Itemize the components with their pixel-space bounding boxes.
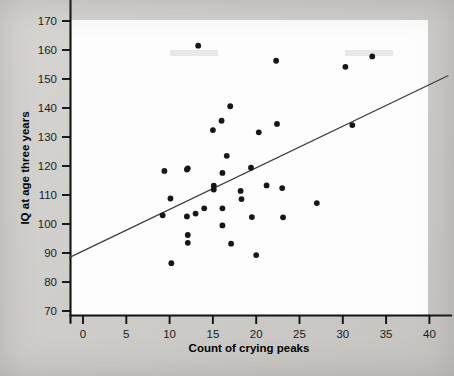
- data-point: [160, 212, 166, 218]
- x-tick-label: 20: [250, 328, 263, 340]
- data-point: [239, 196, 245, 202]
- data-point: [273, 58, 279, 64]
- data-point: [185, 165, 191, 171]
- data-point: [349, 122, 355, 128]
- y-tick-label: 110: [39, 189, 57, 201]
- y-tick-label: 100: [38, 218, 57, 230]
- data-point: [211, 187, 217, 193]
- x-tick-label: 35: [380, 328, 393, 340]
- data-point: [220, 205, 226, 211]
- y-tick-label: 150: [38, 73, 57, 85]
- x-tick-label: 0: [80, 328, 86, 340]
- x-tick-label: 10: [163, 328, 176, 340]
- y-tick-label: 160: [38, 44, 57, 56]
- data-point: [249, 214, 255, 220]
- x-tick-label: 30: [336, 328, 349, 340]
- data-point: [369, 53, 375, 59]
- paper-smudge: [345, 50, 393, 56]
- data-point: [279, 185, 285, 191]
- data-point: [185, 232, 191, 238]
- data-point: [256, 129, 262, 135]
- y-tick-label: 90: [44, 247, 57, 259]
- x-tick-label: 40: [423, 328, 436, 340]
- data-point: [168, 260, 174, 266]
- scatter-plot: 708090100110120130140150160170180 051015…: [0, 0, 454, 376]
- data-point: [168, 196, 174, 202]
- paper-smudge: [170, 50, 218, 56]
- data-point: [185, 240, 191, 246]
- data-point: [184, 214, 190, 220]
- y-tick-label: 80: [44, 276, 57, 288]
- y-tick-label: 130: [38, 131, 57, 143]
- y-tick-label: 70: [44, 305, 57, 317]
- x-tick-label: 25: [293, 328, 306, 340]
- data-point: [314, 200, 320, 206]
- y-axis: 708090100110120130140150160170180: [38, 0, 71, 323]
- y-tick-label: 170: [38, 15, 57, 27]
- data-point: [224, 153, 230, 159]
- x-axis: 0510152025303540: [71, 316, 452, 341]
- x-axis-title: Count of crying peaks: [189, 342, 310, 354]
- data-point: [195, 43, 201, 49]
- data-point: [193, 211, 199, 217]
- x-tick-label: 15: [207, 328, 220, 340]
- data-point: [162, 168, 168, 174]
- data-point: [227, 103, 233, 109]
- data-point: [228, 241, 234, 247]
- data-point: [220, 170, 226, 176]
- data-point: [238, 188, 244, 194]
- y-tick-label: 120: [38, 160, 57, 172]
- x-tick-label: 5: [123, 328, 129, 340]
- data-point: [342, 64, 348, 70]
- data-point: [253, 252, 259, 258]
- data-point: [274, 121, 280, 127]
- figure-panel: 708090100110120130140150160170180 051015…: [0, 0, 454, 376]
- data-point: [219, 118, 225, 124]
- data-point: [210, 127, 216, 133]
- data-point: [201, 205, 207, 211]
- y-tick-label: 140: [38, 102, 57, 114]
- y-axis-title: IQ at age three years: [19, 111, 31, 224]
- data-point: [280, 214, 286, 220]
- data-point: [264, 183, 270, 189]
- data-point: [220, 223, 226, 229]
- data-point: [248, 165, 254, 171]
